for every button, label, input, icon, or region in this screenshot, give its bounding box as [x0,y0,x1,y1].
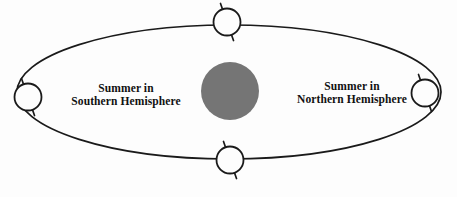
earth-bottom [217,142,244,179]
earth-bottom-globe [217,147,244,174]
earth-top [214,4,241,41]
label-northern-line1: Summer in [274,80,430,93]
label-southern-line2: Southern Hemisphere [46,95,206,108]
label-summer-northern-hemisphere: Summer in Northern Hemisphere [274,80,430,105]
earth-top-globe [214,9,241,36]
seasons-orbit-diagram: Summer in Southern Hemisphere Summer in … [0,0,457,197]
sun [201,62,259,120]
earth-left-globe [15,84,42,111]
label-northern-line2: Northern Hemisphere [274,93,430,106]
label-summer-southern-hemisphere: Summer in Southern Hemisphere [46,82,206,107]
label-southern-line1: Summer in [46,82,206,95]
